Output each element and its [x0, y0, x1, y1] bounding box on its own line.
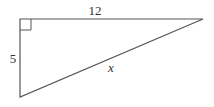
triangle-diagram: 12 5 x [0, 0, 214, 107]
top-side-label: 12 [89, 3, 102, 18]
left-side-label: 5 [10, 51, 17, 66]
hypotenuse-label: x [107, 60, 114, 75]
right-angle-marker [20, 19, 31, 30]
right-triangle [20, 19, 203, 97]
